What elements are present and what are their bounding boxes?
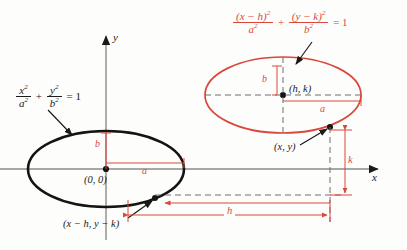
ellipse-diagram: x2 a2 + y2 b2 = 1 (x − h)2 a2 + (y − k)2… (0, 0, 407, 250)
label-point-shifted: (x − h, y − k) (63, 219, 119, 230)
measure-b-black (101, 133, 111, 169)
fraction-y2-b2: y2 b2 (47, 84, 62, 108)
fraction-xh2-a2: (x − h)2 a2 (233, 10, 273, 34)
axis-label-y: y (113, 32, 118, 43)
plus-sign-translated: + (276, 17, 286, 28)
label-b-red: b (262, 74, 267, 84)
equals-one-translated: = 1 (331, 17, 349, 28)
label-translated-center: (h, k) (289, 84, 311, 95)
measure-b-red (272, 66, 282, 95)
equation-standard: x2 a2 + y2 b2 = 1 (16, 84, 83, 108)
label-point-xy: (x, y) (274, 142, 296, 153)
plus-sign-standard: + (34, 91, 44, 102)
equals-one-standard: = 1 (64, 91, 82, 102)
label-a-red: a (320, 104, 325, 114)
equation-translated: (x − h)2 a2 + (y − k)2 b2 = 1 (233, 10, 350, 34)
axis-label-x: x (372, 172, 377, 183)
point-shifted-dot (152, 195, 158, 201)
fraction-yk2-b2: (y − k)2 b2 (289, 10, 329, 34)
label-shift-k: k (348, 155, 353, 166)
diagram-canvas (0, 0, 407, 250)
fraction-x2-a2: x2 a2 (16, 84, 31, 108)
label-origin-center: (0, 0) (84, 175, 107, 186)
label-a-black: a (142, 166, 147, 176)
label-b-black: b (95, 139, 100, 149)
leader-equation-translated (296, 42, 312, 64)
label-shift-h: h (224, 206, 235, 217)
leader-equation-standard (48, 110, 72, 135)
